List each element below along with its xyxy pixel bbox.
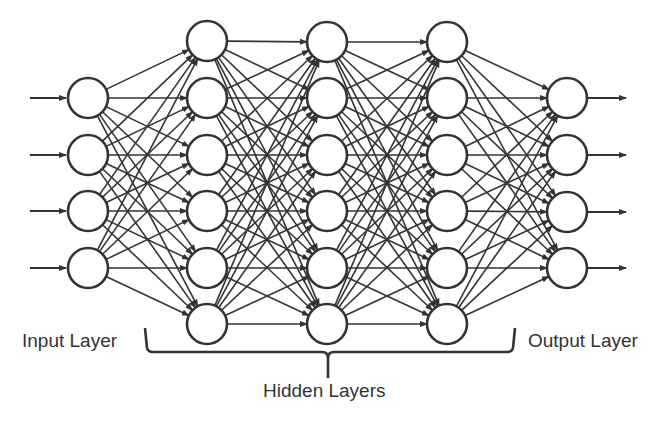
hidden-2-neuron: [307, 78, 347, 118]
input-layer-label: Input Layer: [22, 330, 117, 352]
connection-edge: [99, 57, 195, 194]
connection-edge: [459, 171, 556, 307]
output-layer-label: Output Layer: [528, 330, 638, 352]
hidden-1-neuron: [187, 78, 227, 118]
input-neuron: [68, 78, 108, 118]
connection-edge: [227, 41, 307, 42]
hidden-layers-label: Hidden Layers: [263, 380, 386, 402]
hidden-3-neuron: [427, 304, 467, 344]
hidden-2-neuron: [307, 135, 347, 175]
hidden-2-neuron: [307, 248, 347, 288]
hidden-2-neuron: [307, 191, 347, 231]
neural-network-diagram: [0, 0, 672, 422]
hidden-1-neuron: [187, 135, 227, 175]
input-neuron: [68, 248, 108, 288]
output-neuron: [547, 248, 587, 288]
input-neuron: [68, 191, 108, 231]
input-neuron: [68, 135, 108, 175]
output-neuron: [547, 135, 587, 175]
hidden-3-neuron: [427, 191, 467, 231]
hidden-2-neuron: [307, 304, 347, 344]
hidden-3-neuron: [427, 135, 467, 175]
output-neuron: [547, 78, 587, 118]
hidden-1-neuron: [187, 304, 227, 344]
hidden-1-neuron: [187, 191, 227, 231]
hidden-3-neuron: [427, 78, 467, 118]
hidden-2-neuron: [307, 22, 347, 62]
hidden-3-neuron: [427, 22, 467, 62]
hidden-1-neuron: [187, 21, 227, 61]
hidden-3-neuron: [427, 248, 467, 288]
hidden-1-neuron: [187, 248, 227, 288]
output-neuron: [547, 192, 587, 232]
